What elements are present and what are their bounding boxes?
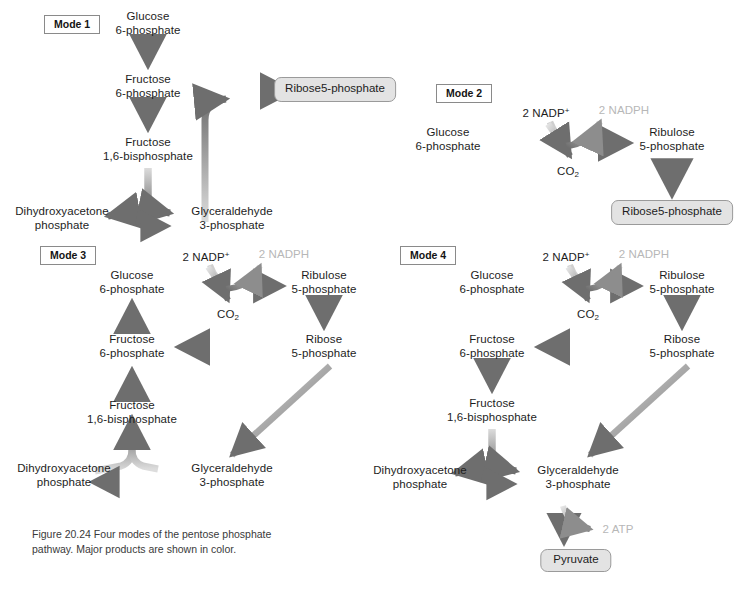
- mode3-node-ribulose-5-phosphate: Ribulose5-phosphate: [291, 269, 356, 296]
- mode3-cofactor-nadp-plus: 2 NADP+: [183, 248, 230, 265]
- figure-caption: Figure 20.24 Four modes of the pentose p…: [32, 527, 297, 556]
- mode-4-label: Mode 4: [400, 246, 456, 265]
- mode3-arrows: [92, 265, 330, 482]
- mode4-node-fructose-1-6-bisphosphate: Fructose1,6-bisphosphate: [447, 397, 537, 424]
- mode-1-label: Mode 1: [44, 15, 100, 34]
- mode4-node-glucose-6-phosphate: Glucose6-phosphate: [459, 269, 524, 296]
- mode4-node-ribose-5-phosphate: Ribose5-phosphate: [649, 333, 714, 360]
- mode1-node-fructose-6-phosphate: Fructose6-phosphate: [115, 73, 180, 100]
- mode2-node-ribulose-5-phosphate: Ribulose5-phosphate: [639, 126, 704, 153]
- mode4-node-glyceraldehyde-3-phosphate: Glyceraldehyde3-phosphate: [537, 464, 618, 491]
- mode1-product-ribose-5-phosphate: Ribose5-phosphate: [274, 77, 396, 102]
- mode2-product-ribose-5-phosphate: Ribose5-phosphate: [611, 200, 733, 225]
- mode2-cofactor-nadp-plus: 2 NADP+: [523, 104, 570, 121]
- mode1-arrows: [100, 42, 292, 226]
- mode3-node-glucose-6-phosphate: Glucose6-phosphate: [99, 269, 164, 296]
- mode2-cofactor-nadph: 2 NADPH: [599, 104, 650, 118]
- mode4-node-fructose-6-phosphate: Fructose6-phosphate: [459, 333, 524, 360]
- mode3-node-fructose-1-6-bisphosphate: Fructose1,6-bisphosphate: [87, 399, 177, 426]
- mode4-node-dihydroxyacetone-phosphate: Dihydroxyacetonephosphate: [373, 464, 467, 491]
- mode1-node-dihydroxyacetone-phosphate: Dihydroxyacetonephosphate: [15, 205, 109, 232]
- mode1-node-glyceraldehyde-3-phosphate: Glyceraldehyde3-phosphate: [191, 205, 272, 232]
- mode-3-label: Mode 3: [40, 246, 96, 265]
- mode4-cofactor-nadph: 2 NADPH: [619, 248, 670, 262]
- mode4-byproduct-co2: CO2: [577, 308, 599, 325]
- mode1-node-glucose-6-phosphate: Glucose6-phosphate: [115, 10, 180, 37]
- mode2-byproduct-co2: CO2: [557, 165, 579, 182]
- pentose-phosphate-pathway-figure: Mode 1 Glucose6-phosphate Fructose6-phos…: [0, 0, 734, 597]
- caption-line-1: Figure 20.24 Four modes of the pentose: [32, 528, 219, 540]
- mode3-node-glyceraldehyde-3-phosphate: Glyceraldehyde3-phosphate: [191, 462, 272, 489]
- mode1-node-fructose-1-6-bisphosphate: Fructose1,6-bisphosphate: [103, 136, 193, 163]
- mode3-node-fructose-6-phosphate: Fructose6-phosphate: [99, 333, 164, 360]
- mode4-node-ribulose-5-phosphate: Ribulose5-phosphate: [649, 269, 714, 296]
- mode4-energy-2-atp: 2 ATP: [603, 523, 634, 537]
- mode4-product-pyruvate: Pyruvate: [540, 549, 611, 572]
- caption-line-3: shown in color.: [167, 543, 236, 555]
- mode4-cofactor-nadp-plus: 2 NADP+: [543, 248, 590, 265]
- mode3-node-dihydroxyacetone-phosphate: Dihydroxyacetonephosphate: [17, 462, 111, 489]
- mode3-cofactor-nadph: 2 NADPH: [259, 248, 310, 262]
- mode-2-label: Mode 2: [436, 84, 492, 103]
- mode2-node-glucose-6-phosphate: Glucose6-phosphate: [415, 126, 480, 153]
- mode3-node-ribose-5-phosphate: Ribose5-phosphate: [291, 333, 356, 360]
- mode3-byproduct-co2: CO2: [217, 308, 239, 325]
